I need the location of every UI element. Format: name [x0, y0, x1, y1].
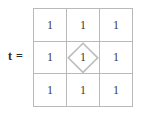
- equals-sign: =: [16, 49, 23, 64]
- cell-value: 1: [80, 19, 86, 31]
- matrix-figure: t = 1 1 1 1 1 1 1 1: [0, 0, 143, 115]
- cell-value: 1: [47, 19, 53, 31]
- matrix-label: t =: [8, 47, 34, 65]
- matrix-grid: 1 1 1 1 1 1 1 1 1: [33, 8, 133, 107]
- cell-value: 1: [113, 84, 119, 96]
- cell-value: 1: [113, 51, 119, 63]
- matrix-cell-r2c3: 1: [100, 42, 133, 75]
- cell-value: 1: [47, 51, 53, 63]
- matrix-cell-r3c2: 1: [67, 74, 100, 107]
- cell-value: 1: [47, 84, 53, 96]
- cell-value: 1: [113, 19, 119, 31]
- matrix-variable-name: t: [8, 49, 12, 64]
- matrix-cell-r1c1: 1: [34, 9, 67, 42]
- matrix-cell-r3c1: 1: [34, 74, 67, 107]
- matrix-cell-r2c2: 1: [67, 42, 100, 75]
- matrix-cell-r2c1: 1: [34, 42, 67, 75]
- matrix-cell-r1c2: 1: [67, 9, 100, 42]
- cell-value: 1: [80, 51, 86, 63]
- cell-value: 1: [80, 84, 86, 96]
- matrix-cell-r3c3: 1: [100, 74, 133, 107]
- matrix-cell-r1c3: 1: [100, 9, 133, 42]
